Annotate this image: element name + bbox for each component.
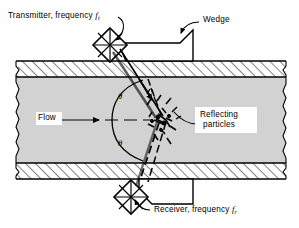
reflecting-particles-label: Reflecting particles [200,110,238,129]
wedge-label: Wedge [203,15,230,25]
figure-root: Transmitter, frequency ft Wedge Flow Ref… [0,0,299,228]
receiver-label: Receiver, frequency fr [154,204,237,215]
receiver-label-text: Receiver, frequency [154,205,232,214]
pipe-wall-top [16,61,286,77]
reflecting-particles-line2: particles [200,120,238,130]
wedge-receiver [139,179,193,204]
angle-theta-lower: θ [118,138,122,148]
transmitter-label: Transmitter, frequency ft [8,10,100,21]
flow-label: Flow [38,113,56,123]
transmitter-label-text: Transmitter, frequency [8,11,95,20]
reflecting-particles-line1: Reflecting [200,110,238,120]
wedge-transmitter [118,30,193,61]
receiver-subscript: r [235,208,238,215]
transmitter-subscript: t [98,14,100,21]
leader-wedge [181,22,199,33]
angle-theta-upper: θ [118,91,122,101]
